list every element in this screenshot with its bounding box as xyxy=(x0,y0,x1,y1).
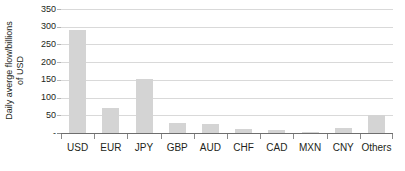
y-axis-tick-mark xyxy=(57,9,61,10)
x-axis-category-labels: USDEURJPYGBPAUDCHFCADMXNCNYOthers xyxy=(61,141,393,159)
x-axis-label-aud: AUD xyxy=(194,141,227,159)
y-axis-title-line-2: of USD xyxy=(14,21,25,120)
y-axis-tick-label: 100 xyxy=(41,93,56,102)
plot-area xyxy=(61,9,393,133)
y-axis-tick-mark xyxy=(57,98,61,99)
x-axis-label-cad: CAD xyxy=(260,141,293,159)
bar-aud[interactable] xyxy=(202,124,219,133)
x-axis-tick-mark xyxy=(94,134,95,139)
x-axis-label-chf: CHF xyxy=(227,141,260,159)
x-axis-label-cny: CNY xyxy=(327,141,360,159)
bar-slot xyxy=(327,9,360,133)
x-axis-tick-mark xyxy=(194,134,195,139)
x-axis-tick-marks xyxy=(61,134,393,139)
y-axis-tick-label: 50 xyxy=(46,111,56,120)
y-axis-tick-label: 350 xyxy=(41,5,56,14)
bar-slot xyxy=(360,9,393,133)
y-axis-tick-mark xyxy=(57,62,61,63)
bar-eur[interactable] xyxy=(102,108,119,133)
bar-slot xyxy=(61,9,94,133)
y-axis-tick-labels: -50100150200250300350 xyxy=(28,0,58,140)
bar-slot xyxy=(94,9,127,133)
y-axis-title-line-1: Daily averge flow/billions xyxy=(4,21,15,120)
bar-gbp[interactable] xyxy=(169,123,186,133)
bar-others[interactable] xyxy=(368,115,385,133)
x-axis-tick-mark xyxy=(293,134,294,139)
y-axis-tick-mark xyxy=(57,44,61,45)
bar-slot xyxy=(227,9,260,133)
x-axis-label-others: Others xyxy=(360,141,393,159)
y-axis-tick-mark xyxy=(57,27,61,28)
bar-slot xyxy=(127,9,160,133)
x-axis-tick-mark xyxy=(260,134,261,139)
x-axis-tick-mark xyxy=(360,134,361,139)
x-axis-tick-mark xyxy=(127,134,128,139)
x-axis-label-eur: EUR xyxy=(94,141,127,159)
x-axis-tick-mark xyxy=(227,134,228,139)
bar-series xyxy=(61,9,393,133)
y-axis-tick-label: 300 xyxy=(41,22,56,31)
bar-slot xyxy=(161,9,194,133)
y-axis-tick-mark xyxy=(57,115,61,116)
y-axis-tick-mark xyxy=(57,80,61,81)
y-axis-title: Daily averge flow/billions of USD xyxy=(0,0,28,140)
y-axis-tick-label: 200 xyxy=(41,58,56,67)
bar-slot xyxy=(194,9,227,133)
x-axis-label-gbp: GBP xyxy=(161,141,194,159)
x-axis-tick-mark xyxy=(327,134,328,139)
x-axis-tick-mark xyxy=(61,134,62,139)
x-axis-label-mxn: MXN xyxy=(293,141,326,159)
bar-slot xyxy=(293,9,326,133)
x-axis-label-usd: USD xyxy=(61,141,94,159)
bar-jpy[interactable] xyxy=(136,79,153,133)
y-axis-tick-label: - xyxy=(53,129,56,138)
bar-usd[interactable] xyxy=(69,30,86,133)
x-axis-label-jpy: JPY xyxy=(127,141,160,159)
bar-chart: Daily averge flow/billions of USD -50100… xyxy=(0,0,405,171)
y-axis-tick-label: 150 xyxy=(41,75,56,84)
x-axis-tick-mark xyxy=(161,134,162,139)
bar-slot xyxy=(260,9,293,133)
y-axis-tick-label: 250 xyxy=(41,40,56,49)
x-axis-tick-mark xyxy=(392,134,393,139)
